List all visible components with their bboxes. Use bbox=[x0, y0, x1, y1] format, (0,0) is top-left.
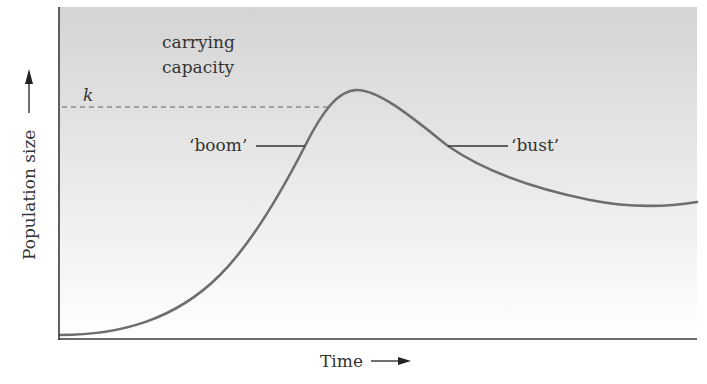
carrying-capacity-label-line2: capacity bbox=[162, 57, 234, 77]
arrow-up-icon bbox=[25, 69, 33, 113]
carrying-capacity-label-line1: carrying bbox=[162, 32, 235, 52]
k-label: k bbox=[83, 85, 93, 105]
boom-bust-population-diagram: carrying capacity k ‘boom’ ‘bust’ Time P… bbox=[0, 0, 707, 384]
x-axis-label: Time bbox=[320, 351, 363, 371]
y-axis-label: Population size bbox=[19, 130, 39, 260]
bust-label: ‘bust’ bbox=[511, 135, 559, 155]
boom-label: ‘boom’ bbox=[189, 135, 247, 155]
arrow-right-icon bbox=[371, 357, 411, 365]
plot-area bbox=[59, 7, 697, 339]
